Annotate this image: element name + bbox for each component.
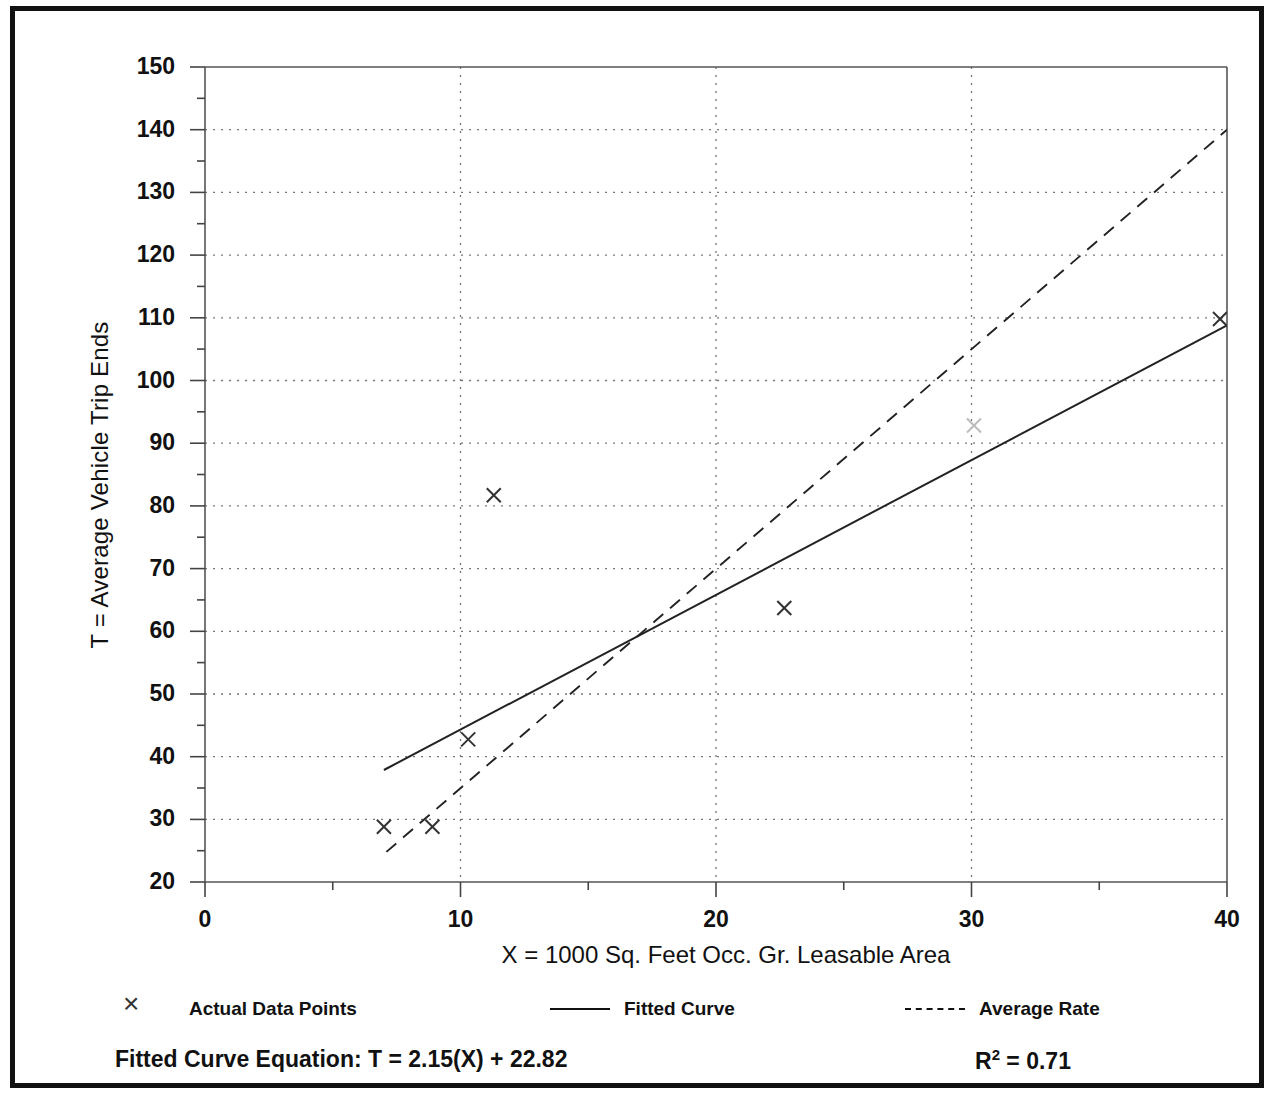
plot-frame [205, 67, 1227, 882]
y-tick-label: 70 [115, 555, 175, 582]
y-tick-label: 140 [115, 116, 175, 143]
dashed-line-icon [905, 999, 965, 1019]
grid-vertical [461, 67, 972, 882]
legend-item-fitted-curve: Fitted Curve [550, 989, 735, 1029]
y-tick-label: 130 [115, 178, 175, 205]
x-tick-label: 20 [686, 906, 746, 933]
chart-footer: Fitted Curve Equation: T = 2.15(X) + 22.… [15, 1046, 1269, 1086]
y-tick-label: 60 [115, 617, 175, 644]
chart-figure: 150 140 130 120 110 100 90 80 70 60 50 4… [0, 0, 1274, 1097]
x-tick-label: 10 [431, 906, 491, 933]
solid-line-icon [550, 999, 610, 1019]
y-axis-ticks [190, 67, 205, 882]
series-average-rate-line [386, 130, 1227, 852]
y-tick-label: 90 [115, 429, 175, 456]
y-tick-label: 110 [115, 304, 175, 331]
data-point-marker [425, 820, 439, 834]
x-marker-icon [115, 999, 175, 1019]
y-axis-title: T = Average Vehicle Trip Ends [86, 275, 114, 695]
legend-label: Average Rate [979, 998, 1100, 1020]
legend-label: Actual Data Points [189, 998, 357, 1020]
y-tick-label: 150 [115, 53, 175, 80]
data-point-marker [777, 601, 791, 615]
x-tick-label: 0 [175, 906, 235, 933]
x-tick-label: 40 [1197, 906, 1257, 933]
data-point-marker [461, 732, 475, 746]
y-tick-label: 120 [115, 241, 175, 268]
y-tick-label: 80 [115, 492, 175, 519]
y-tick-label: 30 [115, 805, 175, 832]
y-tick-label: 100 [115, 367, 175, 394]
r2-number: = 0.71 [1000, 1048, 1071, 1074]
r-squared-value: R2 = 0.71 [975, 1046, 1071, 1075]
series-fitted-curve-line [384, 325, 1227, 770]
legend-item-average-rate: Average Rate [905, 989, 1100, 1029]
legend-item-actual-data-points: Actual Data Points [115, 989, 357, 1029]
y-tick-label: 50 [115, 680, 175, 707]
series-actual-data-points [377, 312, 1227, 834]
figure-border: 150 140 130 120 110 100 90 80 70 60 50 4… [10, 6, 1264, 1088]
chart-legend: Actual Data Points Fitted Curve Average … [15, 989, 1269, 1029]
data-point-marker [967, 419, 981, 433]
y-tick-label: 20 [115, 868, 175, 895]
r2-prefix: R [975, 1048, 992, 1074]
data-point-marker [377, 820, 391, 834]
x-axis-ticks [205, 882, 1227, 897]
data-point-marker [487, 488, 501, 502]
x-axis-title: X = 1000 Sq. Feet Occ. Gr. Leasable Area [215, 941, 1237, 969]
y-tick-label: 40 [115, 743, 175, 770]
data-point-marker [1213, 312, 1227, 326]
legend-label: Fitted Curve [624, 998, 735, 1020]
r2-exponent: 2 [992, 1046, 1000, 1063]
x-tick-label: 30 [942, 906, 1002, 933]
fitted-curve-equation: Fitted Curve Equation: T = 2.15(X) + 22.… [115, 1046, 567, 1073]
